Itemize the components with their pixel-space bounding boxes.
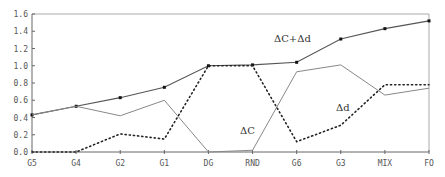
x-tick-label: G2 xyxy=(115,159,125,168)
y-tick-label: 0.4 xyxy=(14,114,29,123)
x-tick-label: MIX xyxy=(378,159,393,168)
x-tick-label: G1 xyxy=(160,159,170,168)
data-point-marker xyxy=(295,61,298,64)
data-point-marker xyxy=(383,27,386,30)
data-point-marker xyxy=(119,96,122,99)
annotation-label: ΔC+Δd xyxy=(274,33,311,44)
data-point-marker xyxy=(339,38,342,41)
y-tick-label: 0.8 xyxy=(14,79,29,88)
annotation-label: Δd xyxy=(336,102,350,113)
annotation-label: ΔC xyxy=(240,125,255,136)
series-line-2 xyxy=(32,66,429,152)
x-tick-label: G6 xyxy=(292,159,302,168)
line-chart: 0.00.20.40.60.81.01.21.41.6G5G4G2G1DGRND… xyxy=(0,0,445,177)
y-tick-label: 0.6 xyxy=(14,96,29,105)
series-group xyxy=(31,19,431,152)
x-tick-label: G4 xyxy=(71,159,81,168)
axes: 0.00.20.40.60.81.01.21.41.6G5G4G2G1DGRND… xyxy=(14,10,434,168)
x-tick-label: RND xyxy=(245,159,260,168)
y-tick-label: 0.0 xyxy=(14,148,29,157)
data-point-marker xyxy=(428,19,431,22)
series-line-1 xyxy=(32,65,429,152)
x-tick-label: DG xyxy=(204,159,214,168)
data-point-marker xyxy=(163,86,166,89)
x-tick-label: G3 xyxy=(336,159,346,168)
y-tick-label: 1.6 xyxy=(14,10,29,19)
y-tick-label: 1.4 xyxy=(14,27,29,36)
y-tick-label: 1.0 xyxy=(14,62,29,71)
annotations: ΔC+ΔdΔCΔd xyxy=(240,33,350,136)
y-tick-label: 0.2 xyxy=(14,131,29,140)
x-tick-label: G5 xyxy=(27,159,37,168)
series-line-0 xyxy=(32,21,429,115)
x-tick-label: FO xyxy=(424,159,434,168)
y-tick-label: 1.2 xyxy=(14,45,29,54)
